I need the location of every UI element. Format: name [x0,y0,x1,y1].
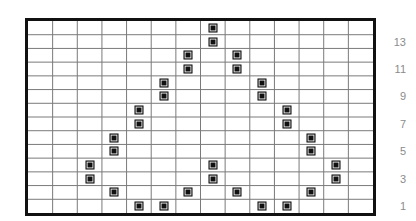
chart-marker [308,134,315,141]
chart-marker [283,107,290,114]
chart-plot-area [25,18,376,216]
chart-marker [283,120,290,127]
chart-marker [111,148,118,155]
chart-marker [86,162,93,169]
chart-marker [259,79,266,86]
chart-marker [135,120,142,127]
y-tick-label: 13 [382,36,406,47]
y-tick-label: 9 [382,91,406,102]
y-tick-label: 7 [382,118,406,129]
chart-marker [185,66,192,73]
chart-marker [259,93,266,100]
y-tick-label: 5 [382,146,406,157]
chart-marker [160,203,167,210]
chart-marker [111,134,118,141]
chart-marker [234,189,241,196]
chart-marker [111,189,118,196]
chart-marker [234,52,241,59]
chart-marker [160,93,167,100]
y-tick-label: 1 [382,201,406,212]
chart-marker [308,189,315,196]
chart-marker [209,24,216,31]
chart-marker [135,107,142,114]
chart-marker [135,203,142,210]
chart-marker [283,203,290,210]
chart-marker [209,38,216,45]
chart-marker [234,66,241,73]
grid-surface [28,21,373,213]
chart-marker [209,175,216,182]
y-axis-tick-labels: 131197531 [382,18,414,216]
chart-marker [185,52,192,59]
chart-marker [259,203,266,210]
chart-marker [333,162,340,169]
chart-marker [160,79,167,86]
chart-marker [86,175,93,182]
chart-marker [308,148,315,155]
y-tick-label: 11 [382,64,406,75]
y-tick-label: 3 [382,173,406,184]
grid-lines [28,21,373,213]
stitch-chart: 131197531 [0,0,416,221]
chart-marker [209,162,216,169]
chart-marker [185,189,192,196]
chart-marker [333,175,340,182]
